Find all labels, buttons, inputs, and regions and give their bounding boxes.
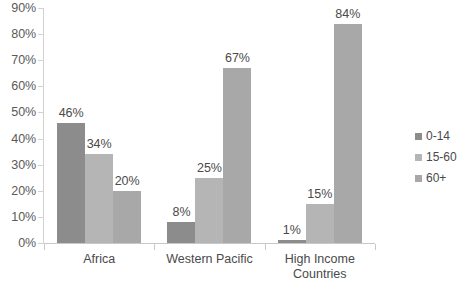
- x-tick-mark: [44, 244, 45, 250]
- bar-chart: 0%10%20%30%40%50%60%70%80%90% 46%34%20%8…: [0, 0, 472, 292]
- bar: [167, 222, 195, 243]
- y-tick-mark: [38, 139, 44, 140]
- bar-value-label: 15%: [307, 188, 332, 201]
- y-tick-mark: [38, 8, 44, 9]
- y-tick-mark: [38, 191, 44, 192]
- legend-label: 0-14: [426, 130, 450, 143]
- x-category-label: Africa: [44, 252, 154, 267]
- bar-item: 46%: [57, 8, 85, 243]
- x-tick-mark: [375, 244, 376, 250]
- y-tick-mark: [38, 60, 44, 61]
- bar-item: 84%: [334, 8, 362, 243]
- bar: [195, 178, 223, 243]
- bar-value-label: 46%: [59, 107, 84, 120]
- y-tick-label: 50%: [0, 106, 36, 118]
- bar-value-label: 34%: [87, 138, 112, 151]
- legend-item[interactable]: 0-14: [415, 126, 472, 147]
- bar-cluster: 8%25%67%: [154, 8, 264, 243]
- y-tick-label: 90%: [0, 2, 36, 14]
- x-axis-line: [43, 243, 375, 244]
- y-tick-label: 20%: [0, 185, 36, 197]
- bar: [278, 240, 306, 243]
- y-tick-label: 40%: [0, 133, 36, 145]
- bar-group: 8%25%67%: [154, 8, 264, 243]
- y-tick-label: 80%: [0, 28, 36, 40]
- bar-value-label: 1%: [283, 224, 301, 237]
- y-tick-label: 70%: [0, 54, 36, 66]
- y-tick-label: 0%: [0, 237, 36, 249]
- bar-item: 25%: [195, 8, 223, 243]
- bar: [306, 204, 334, 243]
- legend-item[interactable]: 60+: [415, 168, 472, 189]
- y-tick-mark: [38, 86, 44, 87]
- legend-swatch-icon: [415, 133, 422, 140]
- bar-item: 20%: [113, 8, 141, 243]
- bar: [223, 68, 251, 243]
- bar-item: 1%: [278, 8, 306, 243]
- y-axis: 0%10%20%30%40%50%60%70%80%90%: [0, 0, 36, 250]
- y-tick-mark: [38, 217, 44, 218]
- y-tick-label: 10%: [0, 211, 36, 223]
- bar-value-label: 84%: [335, 8, 360, 21]
- bar-value-label: 20%: [115, 175, 140, 188]
- bar: [85, 154, 113, 243]
- bar-value-label: 8%: [172, 206, 190, 219]
- legend-item[interactable]: 15-60: [415, 147, 472, 168]
- y-tick-label: 30%: [0, 159, 36, 171]
- bar-item: 67%: [223, 8, 251, 243]
- x-tick-mark: [265, 244, 266, 250]
- y-tick-mark: [38, 165, 44, 166]
- legend-swatch-icon: [415, 175, 422, 182]
- bar: [57, 123, 85, 243]
- legend-label: 15-60: [426, 151, 457, 164]
- x-category-label: Western Pacific: [154, 252, 264, 267]
- bar-cluster: 46%34%20%: [44, 8, 154, 243]
- bar-value-label: 25%: [197, 162, 222, 175]
- bar-cluster: 1%15%84%: [265, 8, 375, 243]
- bar-item: 34%: [85, 8, 113, 243]
- bar: [113, 191, 141, 243]
- bar: [334, 24, 362, 243]
- x-tick-mark: [154, 244, 155, 250]
- legend-label: 60+: [426, 172, 446, 185]
- y-tick-label: 60%: [0, 80, 36, 92]
- y-tick-mark: [38, 34, 44, 35]
- bar-group: 1%15%84%: [265, 8, 375, 243]
- chart-legend: 0-1415-6060+: [415, 126, 472, 189]
- bar-item: 15%: [306, 8, 334, 243]
- y-tick-mark: [38, 112, 44, 113]
- legend-swatch-icon: [415, 154, 422, 161]
- bar-group: 46%34%20%: [44, 8, 154, 243]
- plot-area: 46%34%20%8%25%67%1%15%84%: [44, 8, 375, 243]
- x-category-label: High Income Countries: [265, 252, 375, 282]
- bar-item: 8%: [167, 8, 195, 243]
- bar-value-label: 67%: [225, 52, 250, 65]
